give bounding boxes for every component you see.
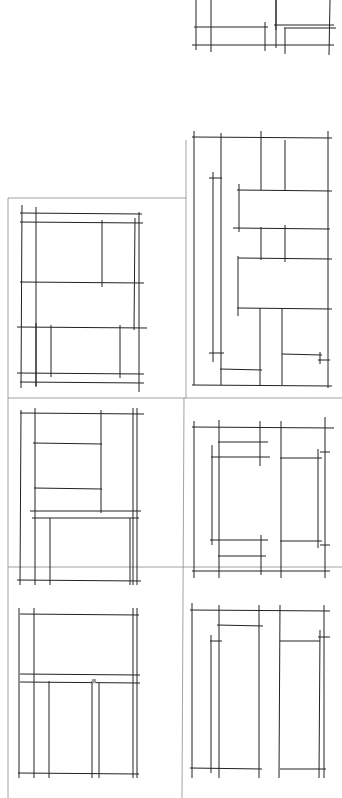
panel-b2 [192, 417, 334, 578]
frame-line [17, 580, 141, 581]
frame-line [20, 382, 144, 383]
frame-line [20, 410, 21, 585]
frame-line [134, 218, 135, 330]
frame-line [20, 282, 144, 283]
frame-line [190, 610, 330, 611]
panel-frames [17, 0, 336, 778]
frame-layout-diagram [0, 0, 342, 798]
frame-line [21, 205, 22, 388]
panel-a3 [18, 608, 140, 778]
frame-line [20, 614, 139, 615]
grid-line-5 [182, 398, 184, 798]
frame-line [217, 625, 263, 626]
panel-b3 [190, 603, 330, 778]
grid-divider-lines [8, 140, 342, 798]
frame-line [33, 443, 102, 444]
frame-line [18, 773, 139, 774]
scan-marks [92, 679, 96, 683]
frame-line [192, 427, 334, 428]
frame-line [20, 213, 142, 214]
frame-line [319, 630, 320, 778]
panel-a2 [17, 408, 144, 585]
frame-line [220, 369, 262, 370]
line-drawing-canvas [0, 0, 342, 798]
frame-line [192, 385, 332, 386]
panel-b1 [192, 131, 332, 388]
frame-line [34, 488, 102, 489]
frame-line [237, 308, 332, 309]
frame-line [20, 222, 143, 223]
panel-a1 [17, 205, 147, 392]
frame-line [20, 682, 140, 683]
panel-top-right-partial [192, 0, 336, 55]
frame-line [279, 605, 280, 778]
frame-line [233, 228, 330, 229]
frame-line [282, 354, 322, 355]
frame-line [20, 413, 144, 414]
scan-mark-smudge [92, 679, 96, 683]
frame-line [192, 137, 332, 138]
frame-line [20, 674, 140, 675]
frame-line [190, 768, 262, 769]
